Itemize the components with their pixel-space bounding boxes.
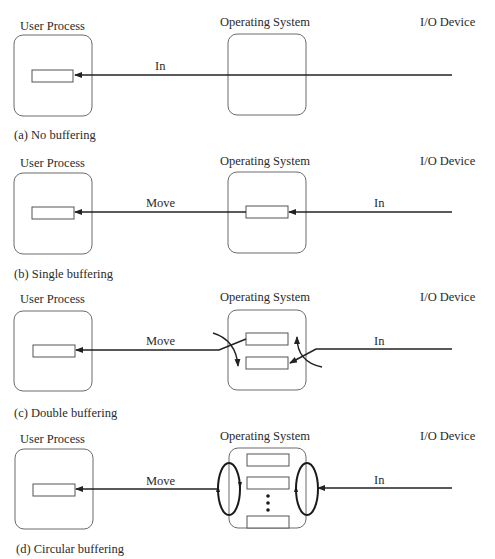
move-label: Move — [146, 474, 176, 488]
os-buffer-2 — [246, 357, 288, 369]
io-device-label: I/O Device — [420, 154, 476, 168]
user-buffer — [32, 70, 73, 82]
user-process-label: User Process — [20, 156, 85, 170]
in-label: In — [374, 196, 385, 210]
operating-system-label: Operating System — [220, 15, 310, 29]
panel-caption: (a) No buffering — [14, 128, 96, 142]
os-buffer — [246, 206, 288, 218]
move-label: Move — [146, 334, 176, 348]
in-label: In — [374, 473, 385, 487]
os-box — [228, 310, 306, 390]
ellipsis-dot — [266, 501, 270, 505]
move-label: Move — [146, 196, 176, 210]
user-buffer — [33, 345, 75, 357]
ellipsis-dot — [266, 508, 270, 512]
ring-arrowhead — [238, 482, 242, 489]
operating-system-label: Operating System — [220, 429, 310, 443]
panel-caption: (c) Double buffering — [14, 406, 118, 420]
os-buffer-1 — [247, 454, 289, 466]
panel-single-buffering: User Process Operating System I/O Device… — [14, 154, 476, 281]
panel-caption: (d) Circular buffering — [16, 542, 125, 556]
os-buffer-2 — [247, 477, 289, 489]
user-buffer — [32, 207, 74, 219]
user-process-label: User Process — [20, 292, 85, 306]
operating-system-label: Operating System — [220, 154, 310, 168]
io-device-label: I/O Device — [420, 429, 476, 443]
io-device-label: I/O Device — [420, 290, 476, 304]
io-device-label: I/O Device — [420, 15, 476, 29]
user-buffer — [33, 484, 75, 496]
in-label: In — [374, 334, 385, 348]
user-process-label: User Process — [20, 19, 85, 33]
panel-circular-buffering: User Process Operating System I/O Device… — [15, 429, 476, 556]
circular-ring-right — [296, 463, 318, 515]
panel-double-buffering: User Process Operating System I/O Device… — [14, 290, 476, 420]
in-label: In — [155, 59, 166, 73]
panel-no-buffering: User Process Operating System I/O Device… — [14, 15, 476, 142]
os-buffer-n — [247, 516, 289, 528]
ellipsis-dot — [266, 494, 270, 498]
panel-caption: (b) Single buffering — [14, 267, 114, 281]
io-buffering-diagram: User Process Operating System I/O Device… — [0, 0, 495, 559]
in-arrow — [290, 349, 452, 363]
ring-arrowhead — [294, 485, 298, 492]
operating-system-label: Operating System — [220, 290, 310, 304]
os-buffer-1 — [246, 333, 288, 345]
user-process-label: User Process — [20, 432, 85, 446]
